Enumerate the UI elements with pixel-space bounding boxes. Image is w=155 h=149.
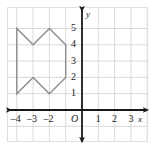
x-axis-label: x xyxy=(138,115,142,124)
y-tick-label-4: 4 xyxy=(71,39,76,49)
y-tick-label-3: 3 xyxy=(71,56,76,66)
x-tick-label-3: 3 xyxy=(128,114,133,124)
origin-label: O xyxy=(71,114,78,124)
y-tick-label-5: 5 xyxy=(71,23,76,33)
x-tick-label-neg3: –3 xyxy=(27,114,37,124)
y-axis-label: y xyxy=(86,10,90,19)
x-tick-label-2: 2 xyxy=(112,114,117,124)
graph-canvas xyxy=(0,0,155,149)
x-tick-label-1: 1 xyxy=(96,114,101,124)
y-tick-label-2: 2 xyxy=(71,72,76,82)
coordinate-plane-figure: –4–3–212312345Oxy xyxy=(0,0,155,149)
x-tick-label-neg4: –4 xyxy=(11,114,21,124)
y-tick-label-1: 1 xyxy=(71,88,76,98)
x-tick-label-neg2: –2 xyxy=(43,114,53,124)
